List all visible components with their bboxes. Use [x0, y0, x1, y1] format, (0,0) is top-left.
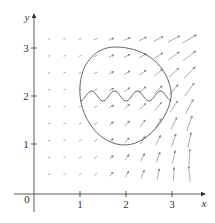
vector-arrow	[48, 39, 50, 40]
vector-arrow	[64, 174, 66, 175]
vector-arrow	[48, 89, 50, 90]
vector-arrow	[64, 72, 66, 73]
vector-arrow	[125, 171, 128, 177]
vector-arrow	[189, 166, 190, 182]
vector-arrow	[139, 37, 147, 41]
vector-arrow	[156, 152, 160, 162]
vector-arrow	[124, 71, 130, 75]
vector-arrow	[109, 55, 114, 57]
y-tick-label-1: 1	[23, 138, 29, 150]
vector-field-arrows	[48, 35, 196, 182]
vector-arrow	[141, 170, 144, 178]
vector-arrow	[154, 69, 162, 76]
vector-arrow	[124, 104, 129, 109]
vector-arrow	[186, 100, 193, 114]
vector-arrow	[184, 67, 195, 79]
vector-arrow	[153, 37, 163, 42]
vector-arrow	[125, 155, 129, 161]
vector-arrow	[140, 103, 146, 109]
vector-arrow	[79, 39, 82, 40]
vector-arrow	[109, 122, 113, 125]
vector-arrow	[109, 72, 114, 75]
vector-arrow	[157, 169, 159, 180]
vector-arrow	[141, 153, 145, 161]
vector-arrow	[109, 105, 113, 108]
vector-arrow	[185, 83, 194, 96]
vector-arrow	[64, 39, 66, 40]
vector-arrow	[124, 88, 129, 92]
vector-arrow	[79, 106, 82, 107]
vector-arrow	[109, 88, 113, 91]
vector-field-diagram: 1 2 3 1 2 3 0 x y	[0, 0, 215, 223]
y-tick-label-3: 3	[23, 42, 29, 54]
vector-arrow	[64, 123, 66, 124]
vector-arrow	[109, 38, 114, 40]
vector-arrow	[124, 38, 130, 41]
vector-arrow	[169, 68, 179, 77]
vector-arrow	[48, 56, 50, 57]
vector-arrow	[173, 168, 174, 181]
vector-arrow	[79, 123, 82, 124]
vector-arrow	[48, 140, 50, 141]
vector-arrow	[94, 156, 97, 159]
vector-arrow	[79, 55, 82, 56]
vector-arrow	[79, 72, 82, 73]
vector-arrow	[154, 53, 163, 59]
vector-arrow	[79, 157, 82, 159]
vector-arrow	[187, 116, 192, 131]
vector-arrow	[48, 174, 50, 175]
wavy-curve	[80, 91, 171, 101]
vector-arrow	[171, 118, 177, 130]
y-tick-label-2: 2	[23, 90, 29, 102]
vector-arrow	[64, 56, 66, 57]
vector-arrow	[48, 157, 50, 158]
vector-arrow	[168, 36, 180, 42]
vector-arrow	[139, 70, 146, 75]
vector-arrow	[156, 136, 161, 146]
vector-arrow	[124, 54, 130, 57]
vector-arrow	[125, 138, 129, 143]
vector-arrow	[183, 35, 197, 43]
axes: 1 2 3 1 2 3 0 x y	[14, 11, 207, 212]
vector-arrow	[94, 122, 97, 124]
vector-arrow	[140, 120, 145, 127]
vector-arrow	[155, 102, 162, 111]
vector-arrow	[110, 155, 114, 159]
vector-arrow	[189, 149, 190, 165]
vector-arrow	[173, 151, 176, 164]
closed-curve	[80, 47, 171, 145]
vector-arrow	[64, 157, 66, 158]
vector-arrow	[168, 52, 179, 60]
vector-arrow	[94, 72, 98, 74]
vector-arrow	[183, 51, 196, 61]
x-axis-label: x	[201, 197, 207, 209]
vector-arrow	[64, 89, 66, 90]
vector-arrow	[79, 173, 82, 175]
vector-arrow	[94, 173, 97, 176]
vector-arrow	[64, 106, 66, 107]
vector-arrow	[125, 121, 130, 126]
vector-arrow	[188, 133, 191, 149]
vector-arrow	[94, 139, 97, 141]
x-tick-label-3: 3	[169, 198, 175, 210]
vector-arrow	[48, 73, 50, 74]
y-axis-label: y	[24, 11, 30, 23]
vector-arrow	[48, 123, 50, 124]
vector-arrow	[94, 55, 98, 57]
vector-arrow	[170, 101, 177, 112]
vector-arrow	[64, 140, 66, 141]
vector-arrow	[94, 38, 98, 39]
vector-arrow	[79, 140, 82, 141]
vector-arrow	[172, 134, 176, 147]
vector-arrow	[110, 172, 113, 176]
x-tick-label-1: 1	[77, 198, 83, 210]
origin-label: 0	[24, 193, 30, 205]
vector-arrow	[139, 87, 146, 93]
vector-arrow	[94, 106, 97, 108]
vector-arrow	[94, 89, 98, 91]
vector-arrow	[48, 106, 50, 107]
x-tick-label-2: 2	[123, 198, 129, 210]
